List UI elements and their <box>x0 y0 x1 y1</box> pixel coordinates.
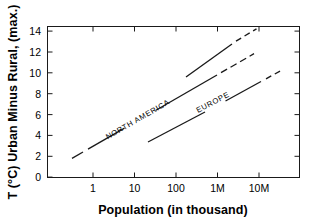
chart-figure: NORTH AMERICA EUROPE 14 12 10 8 6 4 2 0 … <box>0 0 313 223</box>
x-tick-label-1: 1 <box>90 182 96 194</box>
y-tick-label-14: 14 <box>29 25 41 37</box>
y-tick-label-4: 4 <box>35 129 41 141</box>
y-axis-title: T (°C) Urban Minus Rural, (max.) <box>6 4 20 199</box>
y-tick-label-0: 0 <box>35 171 41 183</box>
y-tick-label-2: 2 <box>35 150 41 162</box>
y-tick-label-6: 6 <box>35 109 41 121</box>
y-tick-label-8: 8 <box>35 88 41 100</box>
x-tick-label-1m: 1M <box>210 182 225 194</box>
x-tick-label-10: 10 <box>129 182 141 194</box>
population-vs-urban-heat-island-chart: NORTH AMERICA EUROPE 14 12 10 8 6 4 2 0 … <box>0 0 313 223</box>
x-tick-label-100: 100 <box>167 182 185 194</box>
x-axis-title: Population (in thousand) <box>98 203 248 217</box>
y-tick-label-10: 10 <box>29 67 41 79</box>
plot-frame <box>48 27 300 178</box>
x-tick-label-10m: 10M <box>249 182 269 194</box>
y-tick-label-12: 12 <box>29 46 41 58</box>
